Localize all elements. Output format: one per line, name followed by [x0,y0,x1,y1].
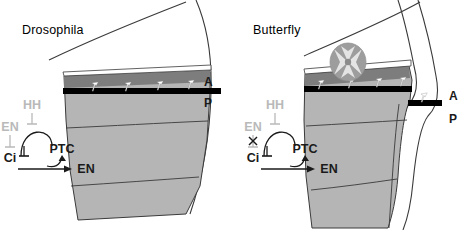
anterior-label-drosophila: A [204,75,213,89]
ap-boundary-stripe-butterfly-inner [304,86,412,92]
panel-title-butterfly: Butterfly [253,23,301,37]
eyespot [330,43,366,81]
ap-boundary-stripe-drosophila [63,88,221,94]
network-node-hh: HH [266,98,284,112]
wing-compartment-figure: Drosophila [0,0,469,230]
network-node-ci: Ci [4,151,17,165]
network-node-ptc: PTC [50,142,75,156]
anterior-label-butterfly: A [449,89,458,103]
network-node-en-top: EN [244,120,261,134]
network-node-ptc: PTC [293,142,318,156]
posterior-label-drosophila: P [204,96,212,110]
ap-boundary-stripe-butterfly-outer [408,100,442,106]
network-node-en-output: EN [320,162,337,176]
panel-title-drosophila: Drosophila [22,23,84,37]
network-node-hh: HH [23,98,41,112]
network-node-ci: Ci [247,151,260,165]
network-node-en-output: EN [77,162,94,176]
posterior-label-butterfly: P [449,112,457,126]
network-node-en-top: EN [1,120,18,134]
